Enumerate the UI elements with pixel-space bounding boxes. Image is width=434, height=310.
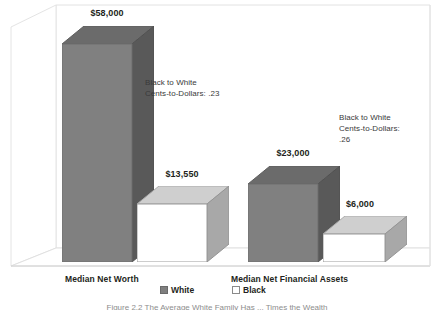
- annotation-cents-to-dollars-financial-assets: Black to White Cents-to-Dollars: .26: [339, 112, 400, 145]
- legend-label-white: White: [171, 285, 194, 295]
- legend-label-black: Black: [243, 285, 266, 295]
- bar-value-label-23000: $23,000: [258, 148, 328, 158]
- legend-swatch-white-icon: [160, 286, 168, 294]
- bar-value-label-58000: $58,000: [72, 8, 142, 18]
- chart-container: $58,000 $13,550 $23,000 $6,000 Black to …: [0, 0, 434, 310]
- category-label-median-net-financial-assets: Median Net Financial Assets: [231, 274, 348, 284]
- legend-swatch-black-icon: [232, 286, 240, 294]
- annotation-cents-to-dollars-net-worth: Black to White Cents-to-Dollars: .23: [145, 77, 219, 99]
- bar-median-net-worth-white: [62, 26, 132, 262]
- chart-legend: White Black: [0, 285, 434, 299]
- bar-median-net-worth-black: [137, 186, 207, 262]
- figure-caption: Figure 2.2 The Average White Family Has …: [0, 303, 434, 310]
- bar-median-net-financial-assets-black: [323, 216, 385, 262]
- category-label-median-net-worth: Median Net Worth: [65, 274, 139, 284]
- legend-item-black[interactable]: Black: [232, 285, 266, 295]
- bar-value-label-6000: $6,000: [329, 199, 391, 209]
- legend-item-white[interactable]: White: [160, 285, 194, 295]
- bar-median-net-financial-assets-white: [248, 166, 318, 262]
- bar-value-label-13550: $13,550: [147, 169, 217, 179]
